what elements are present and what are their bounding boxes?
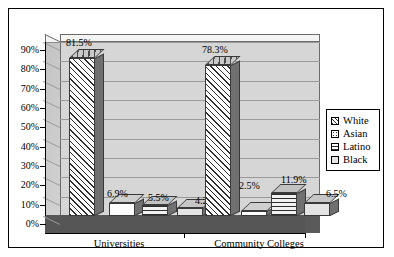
- bar-asian-community-colleges[interactable]: [241, 211, 267, 216]
- y-axis-tick-label: 20%: [11, 180, 39, 190]
- bar-latino-universities[interactable]: [142, 205, 168, 216]
- legend-swatch-icon: [331, 156, 339, 164]
- data-label: 11.9%: [281, 175, 306, 185]
- data-label: 2.5%: [239, 181, 260, 191]
- legend-swatch-icon: [331, 143, 339, 151]
- bar-white-community-colleges[interactable]: [205, 65, 231, 216]
- y-axis-tick: [40, 224, 46, 225]
- data-label: 78.3%: [202, 45, 228, 55]
- legend-item-label: White: [343, 115, 369, 126]
- bar-latino-community-colleges[interactable]: [271, 193, 297, 216]
- bar-face: [109, 203, 135, 216]
- x-axis-tick: [184, 233, 185, 238]
- gridline: [60, 42, 320, 43]
- legend-swatch-icon: [331, 117, 339, 125]
- bar-asian-universities[interactable]: [109, 203, 135, 216]
- x-axis-tick: [305, 233, 306, 238]
- plot-floor-front: [45, 215, 305, 233]
- data-label: 81.5%: [66, 38, 92, 48]
- bar-side: [231, 60, 240, 216]
- y-axis-tick-label: 70%: [11, 84, 39, 94]
- x-axis-category-label: Universities: [59, 238, 179, 249]
- bar-face: [271, 193, 297, 216]
- bar-face: [304, 203, 330, 216]
- y-axis-tick-label: 30%: [11, 161, 39, 171]
- legend-item-label: Latino: [343, 141, 370, 152]
- y-axis-labels: 90%80%70%60%50%40%30%20%10%0%: [9, 9, 39, 249]
- chart-plot-area: 90%80%70%60%50%40%30%20%10%0% Universiti…: [9, 9, 385, 249]
- bar-face: [142, 205, 168, 216]
- legend-item-latino[interactable]: Latino: [331, 140, 376, 153]
- bar-white-universities[interactable]: [69, 58, 95, 216]
- chart-frame: 90%80%70%60%50%40%30%20%10%0% Universiti…: [8, 8, 384, 248]
- bar-side: [95, 54, 104, 216]
- legend-item-asian[interactable]: Asian: [331, 127, 376, 140]
- bar-black-community-colleges[interactable]: [304, 203, 330, 216]
- chart-legend[interactable]: WhiteAsianLatinoBlack: [326, 109, 380, 171]
- bar-face: [205, 65, 231, 216]
- bar-face: [69, 58, 95, 216]
- data-label: 5.5%: [148, 193, 169, 203]
- y-axis-tick-label: 80%: [11, 64, 39, 74]
- legend-item-black[interactable]: Black: [331, 153, 376, 166]
- y-axis-tick-label: 60%: [11, 103, 39, 113]
- x-axis-line: [45, 233, 305, 234]
- bar-face: [241, 211, 267, 216]
- y-axis-line: [45, 42, 46, 216]
- data-label: 6.5%: [326, 189, 347, 199]
- y-axis-tick-label: 90%: [11, 45, 39, 55]
- legend-item-white[interactable]: White: [331, 114, 376, 127]
- legend-swatch-icon: [331, 130, 339, 138]
- legend-item-label: Black: [343, 154, 368, 165]
- y-axis-tick-label: 50%: [11, 122, 39, 132]
- bar-black-universities[interactable]: [177, 208, 203, 216]
- x-axis-category-label: Community Colleges: [199, 238, 319, 249]
- data-label: 6.9%: [107, 189, 128, 199]
- y-axis-tick-label: 0%: [11, 219, 39, 229]
- bar-face: [177, 208, 203, 216]
- legend-item-label: Asian: [343, 128, 368, 139]
- y-axis-tick-label: 10%: [11, 200, 39, 210]
- y-axis-tick-label: 40%: [11, 142, 39, 152]
